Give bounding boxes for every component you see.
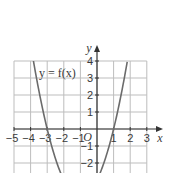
x-tick-label: 2 xyxy=(127,132,133,144)
x-tick-label: −5 xyxy=(6,132,19,144)
y-tick-label: 1 xyxy=(87,106,93,118)
function-graph: −5−4−3−2−1123−2−11234Oxyy = f(x) xyxy=(0,0,171,173)
origin-label: O xyxy=(83,130,92,144)
x-tick-label: 3 xyxy=(144,132,150,144)
x-tick-label: −2 xyxy=(56,132,69,144)
y-tick-label: 3 xyxy=(87,72,93,84)
x-axis-label: x xyxy=(156,131,163,145)
y-tick-label: −2 xyxy=(80,157,93,169)
y-tick-label: 2 xyxy=(87,89,93,101)
y-axis-label: y xyxy=(85,41,92,55)
y-axis-arrow-icon xyxy=(94,45,100,52)
curve-label: y = f(x) xyxy=(39,66,76,80)
x-tick-label: −4 xyxy=(22,132,35,144)
y-tick-label: 4 xyxy=(87,55,93,67)
